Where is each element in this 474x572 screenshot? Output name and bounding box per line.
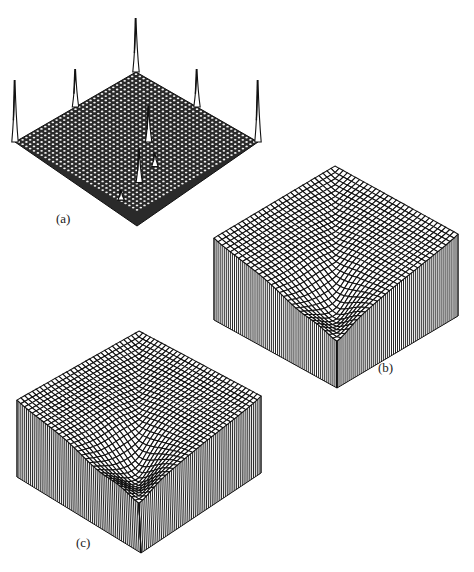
spike bbox=[12, 80, 18, 142]
spike bbox=[194, 69, 200, 107]
panel-label-a: (a) bbox=[56, 211, 70, 227]
figure: (a) (b) (c) bbox=[0, 0, 474, 572]
panel-label-c: (c) bbox=[76, 535, 90, 551]
spike bbox=[133, 18, 139, 72]
panel-label-b: (b) bbox=[378, 360, 393, 376]
panel-c bbox=[17, 331, 261, 553]
panel-b bbox=[214, 166, 458, 388]
surface-plots-canvas bbox=[0, 0, 474, 572]
panel-a bbox=[12, 18, 261, 226]
spike bbox=[72, 69, 78, 107]
spike bbox=[255, 80, 261, 142]
